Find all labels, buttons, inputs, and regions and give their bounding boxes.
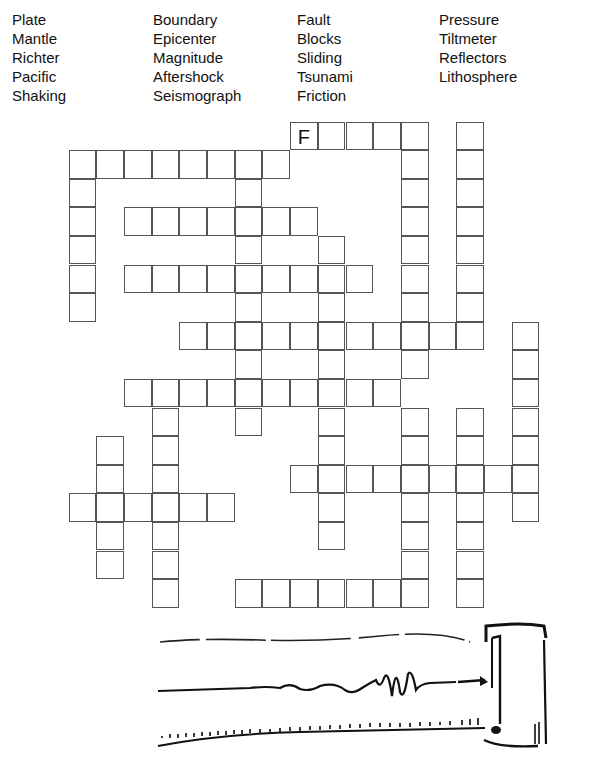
crossword-cell[interactable] <box>456 493 484 522</box>
crossword-cell[interactable] <box>207 379 235 408</box>
crossword-cell[interactable] <box>124 207 152 236</box>
crossword-cell[interactable] <box>373 379 401 408</box>
crossword-cell[interactable] <box>235 293 263 322</box>
crossword-cell[interactable] <box>235 379 263 408</box>
crossword-cell[interactable] <box>69 150 97 179</box>
crossword-cell[interactable] <box>152 465 180 494</box>
crossword-cell[interactable] <box>512 408 540 437</box>
crossword-cell[interactable] <box>346 579 374 608</box>
crossword-cell[interactable] <box>207 265 235 294</box>
crossword-cell[interactable] <box>456 179 484 208</box>
crossword-cell[interactable] <box>179 265 207 294</box>
crossword-cell[interactable] <box>456 207 484 236</box>
crossword-cell[interactable] <box>401 122 429 151</box>
crossword-cell[interactable] <box>207 150 235 179</box>
crossword-cell[interactable] <box>318 522 346 551</box>
crossword-cell[interactable] <box>290 579 318 608</box>
crossword-cell[interactable] <box>318 436 346 465</box>
crossword-cell[interactable] <box>207 322 235 351</box>
crossword-cell[interactable] <box>373 579 401 608</box>
crossword-cell[interactable] <box>484 465 512 494</box>
crossword-cell[interactable] <box>290 265 318 294</box>
crossword-cell[interactable] <box>179 493 207 522</box>
crossword-cell[interactable] <box>401 465 429 494</box>
crossword-cell[interactable] <box>456 408 484 437</box>
crossword-cell[interactable] <box>262 322 290 351</box>
crossword-cell[interactable] <box>235 179 263 208</box>
crossword-cell[interactable] <box>512 322 540 351</box>
crossword-cell[interactable] <box>262 265 290 294</box>
crossword-cell[interactable]: F <box>290 122 318 151</box>
crossword-cell[interactable] <box>512 379 540 408</box>
crossword-cell[interactable] <box>152 436 180 465</box>
crossword-cell[interactable] <box>401 493 429 522</box>
crossword-cell[interactable] <box>235 150 263 179</box>
crossword-cell[interactable] <box>235 265 263 294</box>
crossword-cell[interactable] <box>456 465 484 494</box>
crossword-cell[interactable] <box>96 493 124 522</box>
crossword-cell[interactable] <box>207 493 235 522</box>
crossword-cell[interactable] <box>373 122 401 151</box>
crossword-cell[interactable] <box>152 207 180 236</box>
crossword-cell[interactable] <box>512 350 540 379</box>
crossword-cell[interactable] <box>401 551 429 580</box>
crossword-cell[interactable] <box>262 379 290 408</box>
crossword-cell[interactable] <box>346 465 374 494</box>
crossword-cell[interactable] <box>318 236 346 265</box>
crossword-cell[interactable] <box>318 265 346 294</box>
crossword-cell[interactable] <box>456 265 484 294</box>
crossword-cell[interactable] <box>152 551 180 580</box>
crossword-cell[interactable] <box>512 493 540 522</box>
crossword-cell[interactable] <box>318 465 346 494</box>
crossword-cell[interactable] <box>346 379 374 408</box>
crossword-cell[interactable] <box>318 322 346 351</box>
crossword-cell[interactable] <box>456 322 484 351</box>
crossword-cell[interactable] <box>152 579 180 608</box>
crossword-cell[interactable] <box>346 122 374 151</box>
crossword-cell[interactable] <box>69 265 97 294</box>
crossword-cell[interactable] <box>346 322 374 351</box>
crossword-cell[interactable] <box>429 465 457 494</box>
crossword-cell[interactable] <box>456 436 484 465</box>
crossword-cell[interactable] <box>401 207 429 236</box>
crossword-cell[interactable] <box>290 322 318 351</box>
crossword-cell[interactable] <box>512 465 540 494</box>
crossword-cell[interactable] <box>152 265 180 294</box>
crossword-cell[interactable] <box>346 265 374 294</box>
crossword-cell[interactable] <box>318 379 346 408</box>
crossword-cell[interactable] <box>318 408 346 437</box>
crossword-cell[interactable] <box>235 579 263 608</box>
crossword-cell[interactable] <box>124 150 152 179</box>
crossword-cell[interactable] <box>290 465 318 494</box>
crossword-cell[interactable] <box>318 122 346 151</box>
crossword-cell[interactable] <box>152 379 180 408</box>
crossword-cell[interactable] <box>318 350 346 379</box>
crossword-cell[interactable] <box>152 150 180 179</box>
crossword-cell[interactable] <box>456 579 484 608</box>
crossword-cell[interactable] <box>401 322 429 351</box>
crossword-cell[interactable] <box>152 493 180 522</box>
crossword-cell[interactable] <box>401 293 429 322</box>
crossword-cell[interactable] <box>401 408 429 437</box>
crossword-cell[interactable] <box>179 379 207 408</box>
crossword-cell[interactable] <box>235 350 263 379</box>
crossword-cell[interactable] <box>373 322 401 351</box>
crossword-cell[interactable] <box>318 579 346 608</box>
crossword-cell[interactable] <box>152 408 180 437</box>
crossword-cell[interactable] <box>69 179 97 208</box>
crossword-cell[interactable] <box>179 150 207 179</box>
crossword-cell[interactable] <box>235 322 263 351</box>
crossword-cell[interactable] <box>124 379 152 408</box>
crossword-cell[interactable] <box>401 265 429 294</box>
crossword-cell[interactable] <box>235 207 263 236</box>
crossword-cell[interactable] <box>262 207 290 236</box>
crossword-cell[interactable] <box>96 436 124 465</box>
crossword-cell[interactable] <box>96 150 124 179</box>
crossword-cell[interactable] <box>512 436 540 465</box>
crossword-cell[interactable] <box>69 293 97 322</box>
crossword-cell[interactable] <box>401 150 429 179</box>
crossword-cell[interactable] <box>401 179 429 208</box>
crossword-cell[interactable] <box>456 522 484 551</box>
crossword-cell[interactable] <box>235 408 263 437</box>
crossword-cell[interactable] <box>69 207 97 236</box>
